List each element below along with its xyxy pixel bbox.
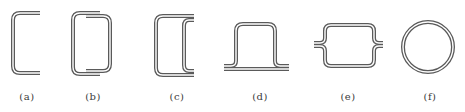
shape-e-flanged-box [314,25,383,66]
panel-label-e: (e) [340,91,355,102]
panel-label-c: (c) [170,91,185,102]
panel-label-d: (d) [252,91,268,102]
cross-section-figure: (a) (b) (c) (d) (e) (f) [0,0,465,112]
shape-d-hat-section [224,24,289,69]
shape-f-circular-tube [403,22,453,72]
panel-label-f: (f) [423,91,436,102]
shape-b-overlap-box [73,13,110,74]
panel-label-a: (a) [19,91,34,102]
panel-label-b: (b) [85,91,101,102]
shape-a-channel [13,13,40,73]
shape-c-double-channel [156,16,194,75]
cross-section-drawings [0,0,465,112]
